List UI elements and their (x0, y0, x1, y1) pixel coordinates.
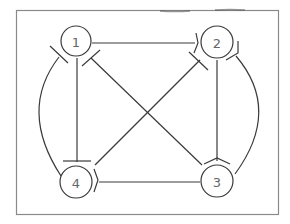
scan-artifact (215, 10, 245, 11)
node-2: 2 (201, 26, 233, 58)
node-4-label: 4 (72, 176, 80, 191)
edge-2-4 (95, 60, 200, 165)
edge-2-3-arc (235, 56, 259, 174)
node-3-label: 3 (213, 175, 221, 190)
node-1-label: 1 (72, 35, 80, 50)
scan-artifact (160, 11, 190, 12)
node-1: 1 (61, 26, 91, 56)
node-2-label: 2 (213, 36, 221, 51)
node-4: 4 (60, 166, 92, 198)
graph-diagram: 1 2 3 4 (0, 0, 290, 224)
node-3: 3 (201, 165, 233, 197)
edge-1-4-arc (39, 57, 61, 176)
